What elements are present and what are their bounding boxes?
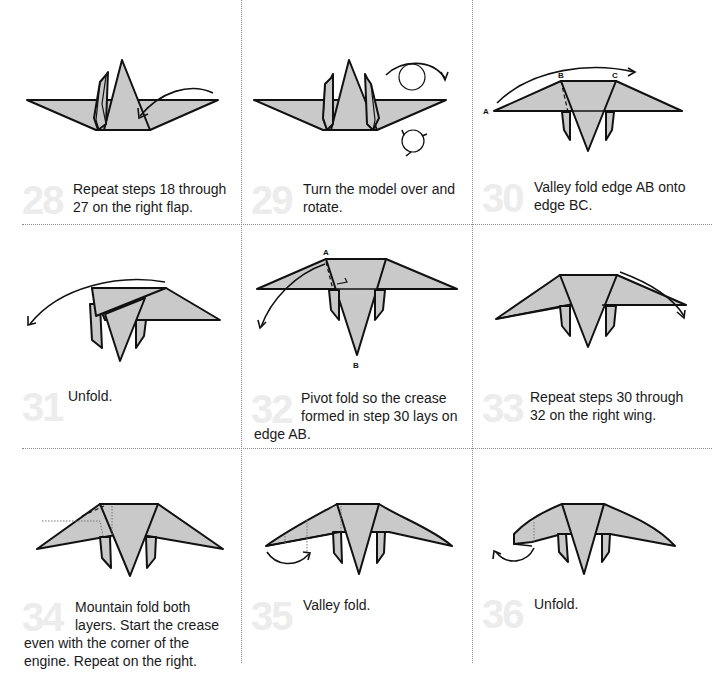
point-label-c: C bbox=[612, 71, 618, 80]
step-33: 33 Repeat steps 30 through 32 on the rig… bbox=[472, 224, 713, 448]
step-instruction: Turn the model over and rotate. bbox=[303, 180, 455, 216]
step-number: 30 bbox=[482, 178, 523, 218]
point-label-b: B bbox=[558, 71, 564, 80]
step-31: 31 Unfold. bbox=[0, 224, 241, 448]
point-label-a: A bbox=[483, 107, 489, 116]
step-number: 28 bbox=[22, 180, 63, 220]
step-instruction: Unfold. bbox=[534, 595, 578, 613]
fold-arrow-icon bbox=[267, 552, 309, 564]
step-34: 34 Mountain fold both layers. Start the … bbox=[0, 448, 241, 679]
step-30: A B C 30 Valley fold edge AB onto edge B… bbox=[472, 0, 713, 224]
step-instruction: Pivot fold so the crease formed in step … bbox=[254, 389, 469, 443]
step-instruction: Valley fold edge AB onto edge BC. bbox=[534, 178, 686, 214]
step-number: 36 bbox=[482, 594, 523, 634]
step-35-diagram bbox=[241, 448, 472, 679]
point-label-b: B bbox=[353, 361, 359, 370]
step-instruction: Repeat steps 18 through 27 on the right … bbox=[73, 180, 226, 216]
step-36-diagram bbox=[472, 448, 713, 679]
step-29: 29 Turn the model over and rotate. bbox=[241, 0, 472, 224]
step-36: 36 Unfold. bbox=[472, 448, 713, 679]
step-number: 29 bbox=[251, 180, 292, 220]
step-instruction: Repeat steps 30 through 32 on the right … bbox=[530, 388, 683, 424]
step-35: 35 Valley fold. bbox=[241, 448, 472, 679]
point-label-a: A bbox=[323, 248, 329, 257]
step-number: 35 bbox=[251, 596, 292, 636]
step-number: 31 bbox=[22, 387, 63, 427]
step-28: 28 Repeat steps 18 through 27 on the rig… bbox=[0, 0, 241, 224]
step-instruction: Mountain fold both layers. Start the cre… bbox=[24, 598, 244, 670]
fold-arrow-icon bbox=[496, 548, 534, 561]
turn-over-icon bbox=[399, 64, 425, 90]
step-instruction: Valley fold. bbox=[303, 596, 370, 614]
step-32: A B 32 Pivot fold so the crease formed i… bbox=[241, 224, 472, 448]
step-number: 33 bbox=[482, 388, 523, 428]
step-instruction: Unfold. bbox=[68, 387, 112, 405]
rotate-icon bbox=[402, 130, 424, 152]
